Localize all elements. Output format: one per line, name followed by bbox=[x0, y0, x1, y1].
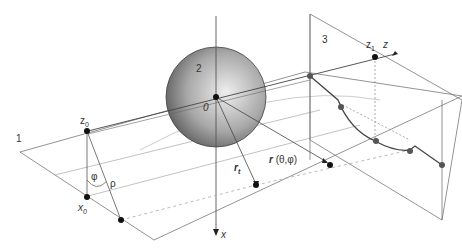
x0-label: x0 bbox=[78, 203, 87, 215]
origin-label: 0 bbox=[203, 103, 209, 113]
x-axis-label: x bbox=[221, 230, 226, 240]
r-theta-phi-label: r (θ,φ) bbox=[269, 155, 297, 165]
rho-label: ρ bbox=[110, 179, 116, 189]
r-t-vector-label: rt bbox=[234, 163, 240, 175]
rho-point bbox=[118, 217, 124, 223]
origin-point bbox=[213, 94, 219, 100]
plane-1-label: 1 bbox=[16, 134, 22, 144]
z0-point bbox=[84, 128, 90, 134]
z1-point bbox=[372, 54, 378, 60]
phi-angle-label: φ bbox=[91, 172, 97, 182]
z0-label: z0 bbox=[80, 116, 89, 128]
rt-point bbox=[253, 182, 259, 188]
r-theta-phi-point bbox=[327, 162, 333, 168]
diagram-canvas bbox=[0, 0, 462, 251]
z1-label: z1 bbox=[366, 40, 375, 52]
z-axis-label: z bbox=[383, 40, 388, 50]
x0-point bbox=[84, 194, 90, 200]
plane-3-label: 3 bbox=[322, 35, 328, 45]
sphere-2-label: 2 bbox=[196, 64, 202, 74]
